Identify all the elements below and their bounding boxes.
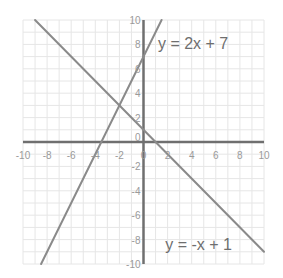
- y-tick-label: 0: [135, 132, 141, 143]
- y-tick-label: 10: [129, 15, 141, 26]
- equation-label-1: y = 2x + 7: [158, 35, 228, 52]
- equation-label-2: y = -x + 1: [165, 236, 232, 253]
- x-tick-label: 6: [213, 150, 219, 161]
- x-tick-label: -6: [67, 150, 76, 161]
- y-tick-label: 2: [135, 113, 141, 124]
- x-tick-label: -10: [16, 150, 31, 161]
- plot-line-2: [35, 20, 264, 252]
- equation-labels: y = 2x + 7 y = -x + 1: [158, 35, 232, 253]
- y-tick-label: -2: [132, 161, 141, 172]
- y-tick-label: -8: [132, 235, 141, 246]
- x-tick-label: -4: [91, 150, 100, 161]
- y-tick-label: 6: [135, 64, 141, 75]
- y-tick-label: 4: [135, 88, 141, 99]
- y-tick-label: 8: [135, 39, 141, 50]
- y-tick-label: -6: [132, 210, 141, 221]
- x-tick-label: 0: [141, 150, 147, 161]
- x-tick-label: 2: [165, 150, 171, 161]
- x-tick-label: 8: [237, 150, 243, 161]
- y-tick-label: -4: [132, 186, 141, 197]
- x-tick-label: 4: [189, 150, 195, 161]
- x-tick-label: -8: [43, 150, 52, 161]
- x-tick-label: 10: [258, 150, 270, 161]
- coordinate-plane: -10-8-6-4-20246810-10-8-6-4-20246810 y =…: [0, 0, 283, 278]
- y-tick-label: -10: [126, 259, 141, 270]
- x-tick-label: -2: [115, 150, 124, 161]
